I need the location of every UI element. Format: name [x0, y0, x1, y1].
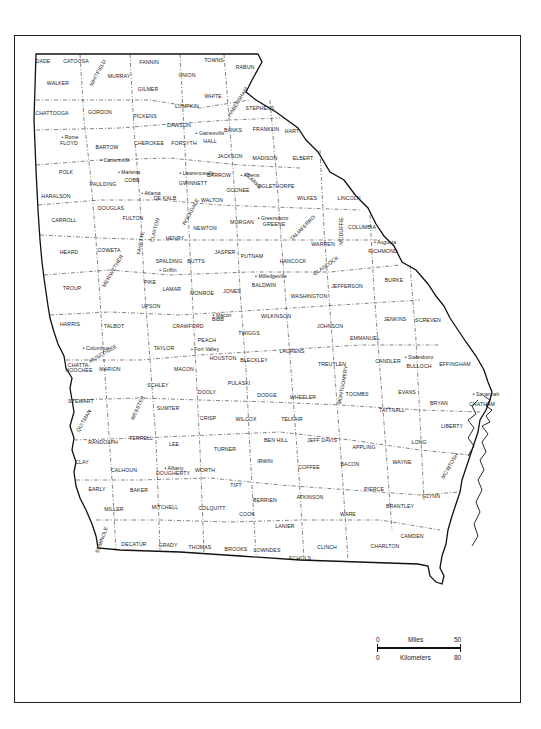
county-label: SUMTER	[157, 406, 180, 411]
county-label: GWINNETT	[179, 181, 207, 186]
scale-km-label: Kilometers	[400, 654, 431, 661]
scale-tick-right	[460, 644, 461, 652]
scale-miles-start: 0	[376, 636, 380, 643]
county-label: DAWSON	[167, 123, 191, 128]
county-label: MORGAN	[230, 220, 254, 225]
county-label: WAYNE	[393, 460, 412, 465]
county-label: FRANKLIN	[253, 127, 279, 132]
county-label: EMMANUEL	[350, 336, 380, 341]
county-label: MCDUFFIE	[339, 217, 344, 245]
county-label: PULASKI	[228, 381, 251, 386]
city-label: • Cartersville	[100, 158, 130, 163]
county-label: POLK	[59, 170, 73, 175]
county-label: BUTTS	[187, 259, 205, 264]
city-label: • Rome	[61, 135, 78, 140]
county-label: TURNER	[214, 447, 236, 452]
county-label: CLAY	[75, 460, 89, 465]
county-label: BANKS	[224, 128, 242, 133]
city-label: • Gainesville	[196, 131, 225, 136]
county-label: BLECKLEY	[240, 358, 268, 363]
county-label: DE KALB	[154, 196, 177, 201]
county-label: ATKINSON	[297, 495, 324, 500]
county-label: LINCOLN	[337, 196, 360, 201]
county-label: LAMAR	[163, 287, 181, 292]
county-label: BURKE	[385, 278, 403, 283]
county-label: PEACH	[198, 338, 216, 343]
county-label: HALL	[203, 139, 216, 144]
county-label: CALHOUN	[111, 468, 137, 473]
county-label: DADE	[36, 59, 51, 64]
county-label: THOMAS	[189, 545, 212, 550]
county-label: WILKINSON	[261, 314, 291, 319]
county-label: CARROLL	[51, 218, 76, 223]
county-label: DOOLY	[198, 390, 216, 395]
scale-km-end: 80	[454, 654, 461, 661]
county-label: JONES	[223, 289, 241, 294]
county-label: WHITE	[204, 94, 221, 99]
county-label: UPSON	[142, 304, 161, 309]
county-label: CANDLER	[375, 359, 401, 364]
scale-miles-label: Miles	[408, 636, 423, 643]
county-label: JACKSON	[217, 154, 242, 159]
city-label: • Albany	[165, 466, 184, 471]
county-label: TOOMBS	[346, 392, 369, 397]
county-label: LIBERTY	[441, 424, 463, 429]
county-label: OGLETHORPE	[257, 184, 294, 189]
city-label: • Milledgeville	[255, 274, 287, 279]
county-label: TATTNALL	[379, 408, 405, 413]
county-label: TWIGGS	[238, 331, 260, 336]
city-label: • Columbus	[83, 346, 110, 351]
county-label: WALKER	[47, 81, 69, 86]
county-label: COFFEE	[298, 465, 320, 470]
county-label: TOWNS	[204, 58, 224, 63]
county-label: CRAWFORD	[172, 324, 203, 329]
scale-bar: 0 Miles 50 0 Kilometers 80	[376, 636, 462, 666]
county-label: MURRAY	[108, 74, 131, 79]
county-label: COLQUITT	[198, 506, 225, 511]
city-label: • Greensboro	[258, 216, 289, 221]
county-label: PUTNAM	[241, 254, 264, 259]
county-label: BRANTLEY	[386, 504, 414, 509]
county-label: PICKENS	[133, 114, 156, 119]
county-label: PIERCE	[364, 487, 384, 492]
county-label: EARLY	[88, 487, 105, 492]
county-label: DODGE	[257, 393, 277, 398]
county-label: MILLER	[104, 507, 123, 512]
county-label: IRWIN	[257, 459, 273, 464]
county-label: APPLING	[352, 445, 375, 450]
county-label: CHATTA- HOOCHEE	[66, 363, 93, 373]
county-label: LUMPKIN	[175, 104, 199, 109]
county-label: TERRELL	[129, 436, 153, 441]
county-label: RABUN	[236, 65, 255, 70]
county-label: GREENE	[263, 222, 286, 227]
county-label: PAULDING	[90, 182, 117, 187]
county-label: SCHLEY	[147, 383, 168, 388]
county-label: WHEELER	[290, 395, 316, 400]
county-label: LOWNDES	[254, 548, 281, 553]
city-label: • Fort Valley	[191, 347, 219, 352]
county-label: EVANS	[398, 390, 416, 395]
county-label: LANIER	[275, 524, 294, 529]
county-label: PIKE	[144, 280, 156, 285]
county-label: CHATHAM	[469, 402, 495, 407]
county-label: TALBOT	[104, 324, 124, 329]
county-label: JEFF DAVIS	[307, 438, 337, 443]
county-label: JENKINS	[384, 317, 407, 322]
city-label: • Macon	[213, 313, 232, 318]
county-label: HANCOCK	[280, 259, 307, 264]
county-label: STEWART	[68, 399, 94, 404]
county-label: WILCOX	[235, 417, 256, 422]
county-label: MARION	[99, 367, 120, 372]
county-label: WARE	[340, 512, 356, 517]
county-label: TAYLOR	[154, 346, 175, 351]
county-label: STEPHENS	[246, 106, 275, 111]
county-label: FORSYTH	[171, 141, 197, 146]
county-label: MACON	[174, 367, 194, 372]
county-label: HENRY	[166, 236, 185, 241]
county-label: SPALDING	[156, 259, 183, 264]
county-label: BAKER	[130, 488, 148, 493]
county-label: GRADY	[159, 543, 178, 548]
county-label: CLINCH	[317, 545, 337, 550]
county-label: BERRIEN	[253, 498, 277, 503]
county-label: LEE	[169, 442, 179, 447]
